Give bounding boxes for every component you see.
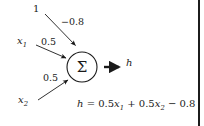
- equation-bias-term: 0.8: [179, 98, 195, 109]
- figure-canvas: Σ 1 −0.8 x1 0.5 0.5 x2 h h = 0.5x1 + 0.5…: [0, 0, 204, 126]
- input-x1-weight-label: 0.5: [41, 37, 56, 47]
- bias-weight-label: −0.8: [61, 17, 84, 27]
- equation-term2-coeff: 0.5: [139, 98, 155, 109]
- input-x2-subscript: 2: [24, 100, 28, 108]
- equation-term1-coeff: 0.5: [98, 98, 114, 109]
- right-edge-rule: [198, 0, 200, 126]
- input-x1-label: x1: [17, 36, 27, 49]
- neuron-equation: h = 0.5x1 + 0.5x2 − 0.8: [77, 99, 195, 112]
- edge-x2-to-neuron: [38, 80, 68, 100]
- equation-minus: −: [165, 98, 180, 109]
- equation-equals: =: [83, 98, 98, 109]
- output-label: h: [126, 58, 132, 68]
- sigma-symbol: Σ: [67, 52, 97, 82]
- bias-input-label: 1: [33, 4, 39, 14]
- input-x2-weight-label: 0.5: [43, 73, 58, 83]
- input-x2-label: x2: [18, 95, 28, 108]
- equation-plus: +: [124, 98, 139, 109]
- input-x1-subscript: 1: [23, 41, 27, 49]
